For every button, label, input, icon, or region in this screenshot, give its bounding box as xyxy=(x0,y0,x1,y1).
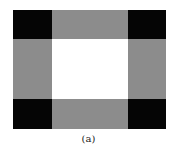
cell-middle-right xyxy=(128,39,166,99)
cell-middle-left xyxy=(13,39,52,99)
cell-top-middle xyxy=(52,10,128,39)
cell-bottom-left xyxy=(13,99,52,129)
pattern-grid xyxy=(13,10,166,129)
cell-top-right xyxy=(128,10,166,39)
cell-bottom-right xyxy=(128,99,166,129)
cell-bottom-middle xyxy=(52,99,128,129)
cell-top-left xyxy=(13,10,52,39)
figure-caption: (a) xyxy=(0,133,177,144)
cell-center xyxy=(52,39,128,99)
